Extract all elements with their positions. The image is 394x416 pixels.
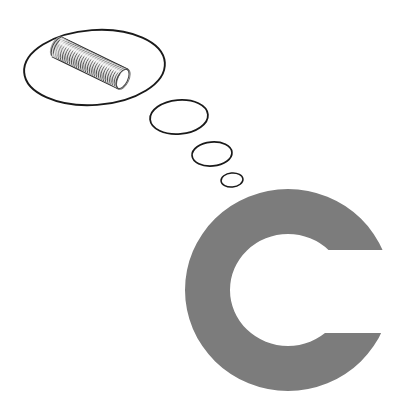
scene-svg [0,0,394,416]
illustration-canvas: Thought bubble with metal coil spring be… [0,0,394,416]
